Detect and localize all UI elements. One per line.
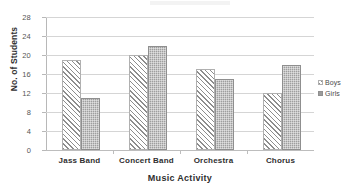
- x-tick-mark: [247, 150, 248, 154]
- legend-swatch-girls-icon: [318, 91, 323, 96]
- legend-label-girls: Girls: [325, 90, 340, 97]
- x-axis-title: Music Activity: [46, 173, 314, 183]
- gridline: [46, 74, 314, 75]
- bar-girls-chorus: [282, 65, 301, 151]
- legend: Boys Girls: [318, 77, 347, 99]
- legend-item-girls[interactable]: Girls: [318, 88, 347, 99]
- y-tick-label: 0: [0, 146, 31, 155]
- y-tick-label: 8: [0, 108, 31, 117]
- x-tick-mark: [113, 150, 114, 154]
- y-tick-label: 20: [0, 51, 31, 60]
- bar-boys-chorus: [263, 93, 282, 150]
- x-tick-label: Orchestra: [180, 156, 247, 165]
- y-tick-label: 16: [0, 70, 31, 79]
- bar-boys-concert-band: [129, 55, 148, 150]
- gridline: [46, 17, 314, 18]
- x-tick-label: Jass Band: [46, 156, 113, 165]
- bar-girls-concert-band: [148, 46, 167, 151]
- bar-boys-orchestra: [196, 69, 215, 150]
- gridline: [46, 36, 314, 37]
- y-tick-label: 28: [0, 13, 31, 22]
- y-tick-label: 12: [0, 89, 31, 98]
- x-tick-mark: [180, 150, 181, 154]
- y-tick-label: 24: [0, 32, 31, 41]
- x-tick-label: Concert Band: [113, 156, 180, 165]
- legend-swatch-boys-icon: [318, 80, 323, 85]
- bar-girls-orchestra: [215, 79, 234, 150]
- bar-chart: No. of Students 0481216202428 Jass BandC…: [0, 0, 347, 194]
- plot-area: [46, 17, 314, 150]
- bar-girls-jass-band: [81, 98, 100, 150]
- y-tick-label: 4: [0, 127, 31, 136]
- bar-boys-jass-band: [62, 60, 81, 150]
- x-tick-label: Chorus: [247, 156, 314, 165]
- scan-artifact: [150, 1, 230, 5]
- legend-label-boys: Boys: [325, 79, 341, 86]
- legend-item-boys[interactable]: Boys: [318, 77, 347, 88]
- gridline: [46, 55, 314, 56]
